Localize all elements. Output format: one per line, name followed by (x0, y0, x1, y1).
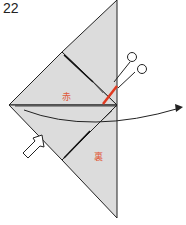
scissors-icon (114, 53, 147, 89)
lower-flap-label: 裏 (94, 150, 103, 163)
push-arrow-icon (23, 135, 44, 158)
upper-flap-label: 赤 (62, 90, 71, 103)
origami-diagram (0, 0, 186, 225)
